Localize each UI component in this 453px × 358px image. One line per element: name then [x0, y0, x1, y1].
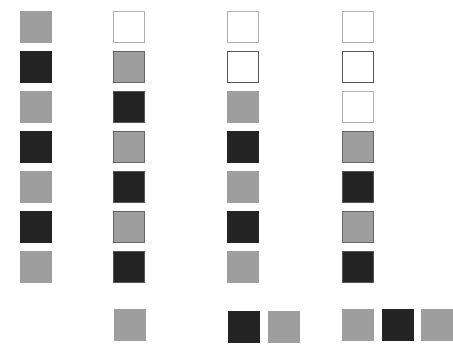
column-2-dark-square-row-3: [113, 91, 145, 123]
column-4-bottom-light-gray-square-3: [421, 309, 453, 341]
column-4-empty-square-light-border-row-1: [342, 11, 374, 43]
column-1-light-gray-square-row-1: [20, 11, 52, 43]
column-3-light-gray-square-row-7: [227, 251, 259, 283]
column-2-empty-square-light-border-row-1: [113, 11, 145, 43]
column-3-dark-square-row-6: [227, 211, 259, 243]
column-1-light-gray-square-row-5: [20, 171, 52, 203]
column-3-light-gray-square-row-5: [227, 171, 259, 203]
column-1-dark-square-row-4: [20, 131, 52, 163]
column-1-dark-square-row-2: [20, 51, 52, 83]
column-4-bottom-light-gray-square-1: [342, 309, 374, 341]
column-4-empty-square-dark-border-row-2: [342, 51, 374, 83]
column-2-dark-square-row-7: [113, 251, 145, 283]
column-3-bottom-light-gray-square-2: [268, 311, 300, 343]
column-4-dark-square-row-5: [342, 171, 374, 203]
column-4-light-gray-square-row-4: [342, 131, 374, 163]
column-1-light-gray-square-row-3: [20, 91, 52, 123]
column-2-light-gray-square-row-2: [113, 51, 145, 83]
column-1-light-gray-square-row-7: [20, 251, 52, 283]
column-4-bottom-dark-square-2: [382, 309, 414, 341]
column-4-dark-square-row-7: [342, 251, 374, 283]
column-3-light-gray-square-row-3: [227, 91, 259, 123]
column-4-empty-square-light-border-row-3: [342, 91, 374, 123]
column-3-dark-square-row-4: [227, 131, 259, 163]
column-2-light-gray-square-row-4: [113, 131, 145, 163]
column-1-dark-square-row-6: [20, 211, 52, 243]
column-4-light-gray-square-row-6: [342, 211, 374, 243]
column-2-bottom-light-gray-square-1: [114, 309, 146, 341]
column-3-bottom-dark-square-1: [228, 311, 260, 343]
column-2-dark-square-row-5: [113, 171, 145, 203]
column-2-light-gray-square-row-6: [113, 211, 145, 243]
column-3-empty-square-light-border-row-1: [227, 11, 259, 43]
column-3-empty-square-dark-border-row-2: [227, 51, 259, 83]
